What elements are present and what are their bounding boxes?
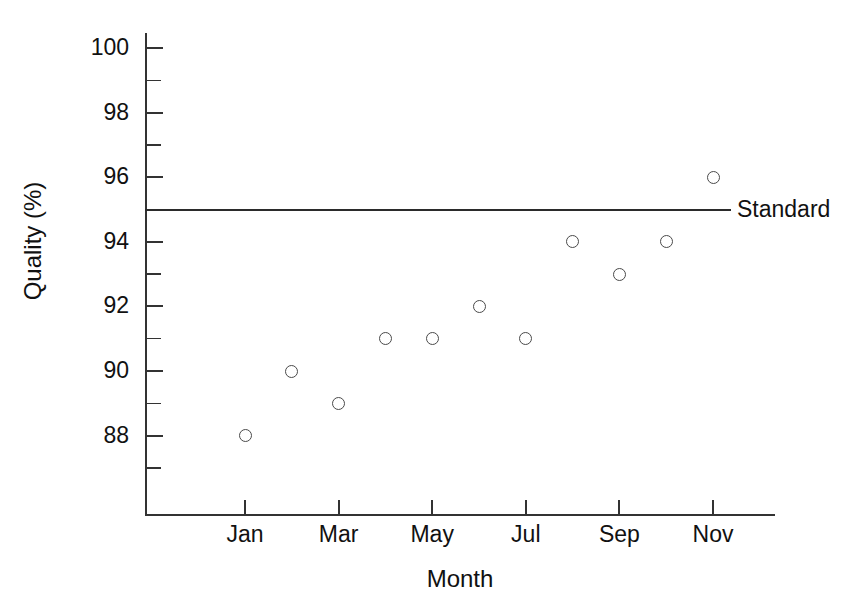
y-tick-minor <box>147 144 161 146</box>
y-tick-label: 90 <box>75 359 129 382</box>
y-tick-minor <box>147 80 161 82</box>
x-tick-label: Nov <box>668 521 758 547</box>
x-tick <box>431 500 433 515</box>
y-tick-label: 88 <box>75 424 129 447</box>
x-tick <box>244 500 246 515</box>
y-tick-minor <box>147 273 161 275</box>
y-tick-label: 98 <box>75 101 129 124</box>
x-tick-label: Jan <box>200 521 290 547</box>
y-tick-major <box>147 305 163 307</box>
standard-reference-line <box>145 209 731 211</box>
y-axis-title: Quality (%) <box>20 156 46 326</box>
data-point-marker <box>332 397 345 410</box>
y-tick-label: 100 <box>75 36 129 59</box>
y-tick-major <box>147 176 163 178</box>
data-point-marker <box>379 332 392 345</box>
data-point-marker <box>473 300 486 313</box>
y-tick-label: 94 <box>75 230 129 253</box>
x-tick <box>618 500 620 515</box>
x-tick-label: May <box>387 521 477 547</box>
x-tick <box>712 500 714 515</box>
x-tick-label: Jul <box>481 521 571 547</box>
y-tick-major <box>147 112 163 114</box>
data-point-marker <box>707 171 720 184</box>
data-point-marker <box>426 332 439 345</box>
data-point-marker <box>613 268 626 281</box>
y-tick-label: 96 <box>75 165 129 188</box>
y-tick-major <box>147 435 163 437</box>
quality-scatter-chart: Quality (%) 889092949698100 JanMarMayJul… <box>0 0 858 615</box>
y-tick-major <box>147 370 163 372</box>
x-tick <box>525 500 527 515</box>
x-axis-title: Month <box>370 566 550 592</box>
data-point-marker <box>239 429 252 442</box>
y-tick-label: 92 <box>75 294 129 317</box>
y-tick-major <box>147 241 163 243</box>
x-axis-line <box>145 514 775 516</box>
y-tick-minor <box>147 467 161 469</box>
y-tick-minor <box>147 338 161 340</box>
standard-reference-label: Standard <box>737 196 830 222</box>
y-tick-major <box>147 47 163 49</box>
x-tick-label: Sep <box>574 521 664 547</box>
data-point-marker <box>566 235 579 248</box>
x-tick <box>338 500 340 515</box>
data-point-marker <box>519 332 532 345</box>
data-point-marker <box>660 235 673 248</box>
x-tick-label: Mar <box>294 521 384 547</box>
y-tick-minor <box>147 403 161 405</box>
data-point-marker <box>285 365 298 378</box>
